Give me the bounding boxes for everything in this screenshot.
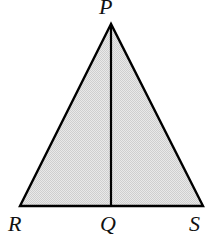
vertex-label-p: P xyxy=(99,0,112,18)
vertex-label-q: Q xyxy=(100,213,116,235)
triangle-diagram-svg xyxy=(0,0,214,244)
geometry-figure: P R Q S xyxy=(0,0,214,244)
vertex-label-s: S xyxy=(189,213,200,235)
vertex-label-r: R xyxy=(8,213,21,235)
